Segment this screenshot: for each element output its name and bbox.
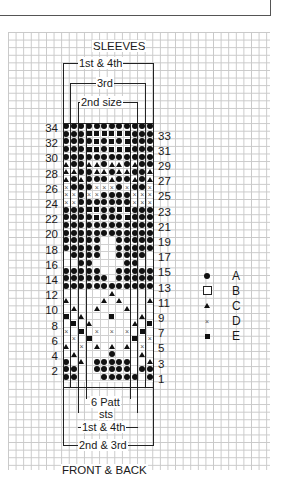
chart-cell <box>78 282 86 290</box>
chart-cell <box>101 138 109 146</box>
chart-line-patt-right <box>130 123 131 388</box>
chart-cell <box>116 207 124 215</box>
chart-cell <box>93 207 101 215</box>
chart-cell <box>93 153 101 161</box>
chart-cell <box>116 260 124 268</box>
row-number: 6 <box>52 335 58 347</box>
front-back-title: FRONT & BACK <box>61 464 148 476</box>
row-number: 1 <box>158 373 164 385</box>
row-number: 14 <box>45 274 58 286</box>
chart-cell <box>78 146 86 154</box>
chart-cell <box>101 199 109 207</box>
body-bracket-2nd-3rd-left <box>63 428 64 446</box>
chart-cell <box>101 207 109 215</box>
legend-item-a: A <box>200 268 241 283</box>
chart-cell <box>78 245 86 253</box>
legend-label: D <box>232 314 241 328</box>
chart-cell <box>101 275 109 283</box>
chart-cell <box>93 138 101 146</box>
body-bracket-patt-label: 6 Patt <box>90 396 121 408</box>
chart-cell <box>93 374 101 382</box>
chart-cell <box>101 260 109 268</box>
row-number: 23 <box>158 206 171 218</box>
legend-item-c: C <box>200 298 241 313</box>
chart-cell <box>78 131 86 139</box>
chart-cell <box>93 161 101 169</box>
chart-cell <box>78 374 86 382</box>
chart-edge-left <box>63 123 64 428</box>
chart-cell <box>78 237 86 245</box>
body-bracket-1st-4th-label: 1st & 4th <box>81 421 126 433</box>
chart-cell <box>93 343 101 351</box>
filled-triangle-icon <box>200 303 214 308</box>
legend-item-b: B <box>200 283 241 298</box>
chart-cell <box>93 237 101 245</box>
chart-cell <box>101 153 109 161</box>
header-box <box>0 0 271 16</box>
chart-cell <box>101 161 109 169</box>
chart-cell <box>78 161 86 169</box>
chart-cell <box>101 191 109 199</box>
row-number: 27 <box>158 175 171 187</box>
chart-cell <box>93 214 101 222</box>
row-number: 4 <box>52 350 58 362</box>
chart-cell: × <box>93 191 101 199</box>
legend-label: C <box>232 299 241 313</box>
row-number: 15 <box>158 266 171 278</box>
chart-cell <box>109 252 117 260</box>
row-number: 2 <box>52 365 58 377</box>
chart-cell <box>109 222 117 230</box>
chart-cell <box>93 267 101 275</box>
chart-cell <box>93 305 101 313</box>
sleeve-bracket-2nd-right <box>137 102 138 123</box>
chart-cell <box>78 290 86 298</box>
body-bracket-patt-right <box>130 387 131 399</box>
body-bracket-sts-label: sts <box>98 408 114 420</box>
chart-cell <box>93 275 101 283</box>
chart-cell <box>116 351 124 359</box>
legend-label: A <box>232 269 240 283</box>
chart-cell <box>101 328 109 336</box>
body-bracket-2nd-3rd-right <box>153 428 154 446</box>
row-number: 17 <box>158 251 171 263</box>
chart-cell <box>116 313 124 321</box>
chart-line-2nd-left <box>78 123 79 413</box>
chart-cell <box>116 336 124 344</box>
chart-cell <box>109 214 117 222</box>
row-number: 13 <box>158 282 171 294</box>
row-number: 21 <box>158 221 171 233</box>
chart-cell <box>78 305 86 313</box>
row-number: 3 <box>158 358 164 370</box>
chart-cell <box>116 366 124 374</box>
chart-cell <box>116 245 124 253</box>
row-number: 34 <box>45 122 58 134</box>
chart-cell <box>101 131 109 139</box>
chart-cell <box>101 252 109 260</box>
chart-cell <box>78 358 86 366</box>
row-number: 10 <box>45 304 58 316</box>
chart-cell <box>109 275 117 283</box>
chart-bottom-edge <box>63 387 154 388</box>
chart-cell <box>116 153 124 161</box>
chart-cell <box>109 237 117 245</box>
chart-cell <box>78 169 86 177</box>
chart-cell <box>101 245 109 253</box>
chart-cell <box>78 252 86 260</box>
chart-cell <box>93 298 101 306</box>
chart-cell <box>78 184 86 192</box>
chart-cell <box>93 222 101 230</box>
chart-cell <box>78 275 86 283</box>
chart-cell <box>109 161 117 169</box>
chart-cell <box>101 229 109 237</box>
chart-cell <box>116 184 124 192</box>
chart-cell <box>78 191 86 199</box>
chart-cell <box>78 153 86 161</box>
chart-cell <box>78 298 86 306</box>
chart-cell <box>101 290 109 298</box>
row-number: 25 <box>158 190 171 202</box>
legend-label: E <box>232 329 240 343</box>
chart-cell <box>116 374 124 382</box>
row-number: 5 <box>158 342 164 354</box>
row-number: 32 <box>45 137 58 149</box>
chart-cell <box>101 298 109 306</box>
